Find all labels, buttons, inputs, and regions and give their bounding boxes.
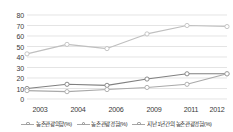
legend-item-0: 농촌관광의향(%) (21, 121, 72, 128)
legend-item-2: 지난 1년간의 농촌관광경험(%) (132, 121, 211, 128)
data-point-0-4 (185, 23, 189, 27)
data-point-1-4 (185, 72, 189, 76)
data-point-2-2 (105, 87, 109, 91)
data-point-1-1 (65, 82, 69, 86)
data-point-1-2 (105, 83, 109, 87)
data-point-0-3 (145, 32, 149, 36)
gridlines (27, 15, 227, 99)
data-point-0-5 (225, 24, 229, 28)
line-chart: 80 70 60 50 40 30 20 10 0 2003 2004 2006… (0, 0, 233, 132)
series-0 (25, 23, 229, 56)
legend-label-0: 농촌관광의향(%) (36, 121, 72, 128)
chart-legend: 농촌관광의향(%) 농촌관광경험(%) 지난 1년간의 농촌관광경험(%) (0, 118, 233, 130)
legend-label-2: 지난 1년간의 농촌관광경험(%) (147, 121, 212, 128)
legend-label-1: 농촌관광경험(%) (91, 121, 127, 128)
series-layer (25, 23, 229, 93)
data-point-1-3 (145, 77, 149, 81)
legend-marker-icon-2 (132, 121, 145, 128)
data-point-2-1 (65, 90, 69, 94)
plot-area (0, 0, 233, 132)
data-point-2-5 (225, 72, 229, 76)
legend-marker-icon-1 (77, 121, 90, 128)
series-line-0 (27, 26, 227, 54)
data-point-0-0 (25, 52, 29, 56)
data-point-0-1 (65, 42, 69, 46)
data-point-2-0 (25, 89, 29, 93)
legend-marker-icon-0 (21, 121, 34, 128)
data-point-0-2 (105, 47, 109, 51)
legend-item-1: 농촌관광경험(%) (77, 121, 128, 128)
data-point-2-3 (145, 85, 149, 89)
data-point-2-4 (185, 82, 189, 86)
